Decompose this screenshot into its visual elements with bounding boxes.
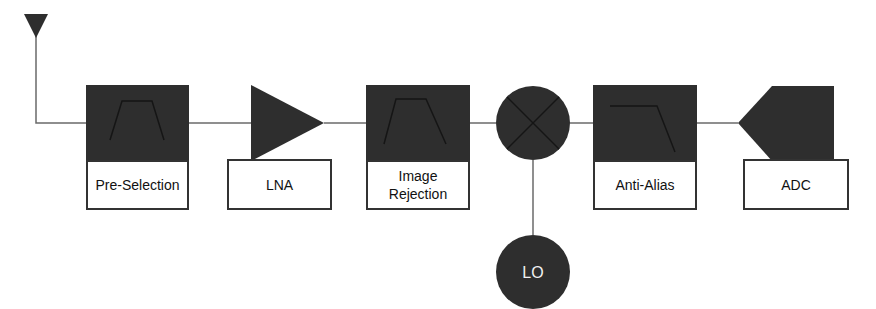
block-lo[interactable]: LO xyxy=(496,235,570,309)
block-adc[interactable]: ADC xyxy=(738,86,848,209)
label-image-rejection-line2: Rejection xyxy=(389,186,447,202)
bandpass-filter-body xyxy=(366,85,470,161)
block-lna[interactable]: LNA xyxy=(228,85,331,209)
bandpass-filter-body xyxy=(86,85,189,161)
block-anti-alias[interactable]: Anti-Alias xyxy=(593,85,697,209)
label-pre-selection: Pre-Selection xyxy=(95,177,179,193)
label-lna: LNA xyxy=(266,177,294,193)
block-pre-selection[interactable]: Pre-Selection xyxy=(86,85,189,209)
block-image-rejection[interactable]: Image Rejection xyxy=(366,85,470,209)
label-image-rejection-line1: Image xyxy=(399,168,438,184)
amplifier-icon xyxy=(251,85,324,161)
label-lo: LO xyxy=(522,264,543,281)
lowpass-filter-body xyxy=(593,85,697,161)
block-mixer[interactable] xyxy=(496,86,570,160)
adc-icon xyxy=(738,86,834,161)
label-adc: ADC xyxy=(781,177,811,193)
antenna xyxy=(24,14,48,38)
antenna-icon xyxy=(24,14,48,38)
receiver-block-diagram: Pre-Selection LNA Image Rejection LO xyxy=(0,0,876,309)
wire-antenna-to-preselection xyxy=(36,36,86,123)
label-anti-alias: Anti-Alias xyxy=(615,177,674,193)
